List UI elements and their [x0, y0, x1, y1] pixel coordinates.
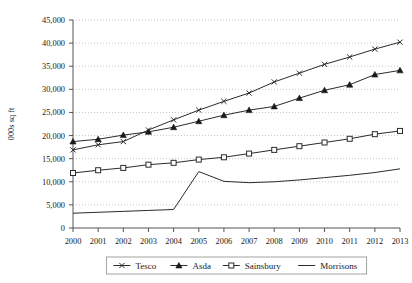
data-point-marker — [71, 170, 76, 175]
x-tick-label: 2003 — [140, 237, 157, 246]
data-point-marker — [96, 168, 101, 173]
x-tick-label: 2002 — [115, 237, 132, 246]
y-axis-tick-labels: 05,00010,00015,00020,00025,00030,00035,0… — [42, 16, 65, 233]
data-point-marker — [347, 82, 353, 88]
legend-label: Morrisons — [320, 261, 357, 271]
series-line-asda — [73, 70, 400, 141]
data-point-marker — [196, 157, 201, 162]
data-point-marker — [272, 147, 277, 152]
line-chart: 05,00010,00015,00020,00025,00030,00035,0… — [0, 0, 412, 283]
data-point-marker — [171, 160, 176, 165]
data-point-marker — [322, 140, 327, 145]
y-tick-label: 20,000 — [42, 132, 65, 141]
legend-label: Sainsbury — [245, 261, 281, 271]
data-point-marker — [372, 132, 377, 137]
data-point-marker — [398, 128, 403, 133]
series-asda — [70, 67, 403, 144]
x-tick-label: 2000 — [65, 237, 82, 246]
chart-container: 05,00010,00015,00020,00025,00030,00035,0… — [0, 0, 412, 283]
x-tick-label: 2005 — [190, 237, 207, 246]
data-series-layer — [70, 40, 403, 214]
x-tick-label: 2011 — [341, 237, 357, 246]
y-tick-label: 30,000 — [42, 85, 65, 94]
y-axis-tick-marks — [69, 20, 73, 228]
data-point-marker — [347, 136, 352, 141]
y-tick-label: 15,000 — [42, 155, 65, 164]
data-point-marker — [247, 151, 252, 156]
y-tick-label: 45,000 — [42, 16, 65, 25]
series-morrisons — [73, 169, 400, 213]
series-line-morrisons — [73, 169, 400, 213]
y-tick-label: 40,000 — [42, 39, 65, 48]
x-tick-label: 2013 — [392, 237, 409, 246]
x-tick-label: 2008 — [266, 237, 283, 246]
legend-marker-square — [229, 263, 234, 268]
x-tick-label: 2009 — [291, 237, 308, 246]
y-tick-label: 5,000 — [46, 201, 65, 210]
x-tick-label: 2006 — [216, 237, 233, 246]
y-axis-title: 000s sq ft — [7, 107, 16, 140]
x-tick-label: 2010 — [316, 237, 333, 246]
legend-label: Tesco — [135, 261, 156, 271]
x-tick-label: 2007 — [241, 237, 258, 246]
legend-label: Asda — [192, 261, 211, 271]
data-point-marker — [221, 155, 226, 160]
data-point-marker — [397, 67, 403, 73]
y-tick-label: 10,000 — [42, 178, 65, 187]
x-tick-label: 2004 — [165, 237, 183, 246]
y-tick-label: 35,000 — [42, 62, 65, 71]
x-tick-label: 2012 — [366, 237, 383, 246]
chart-legend: TescoAsdaSainsburyMorrisons — [106, 257, 366, 274]
y-tick-label: 0 — [61, 224, 65, 233]
data-point-marker — [297, 144, 302, 149]
y-tick-label: 25,000 — [42, 108, 65, 117]
data-point-marker — [121, 165, 126, 170]
x-tick-label: 2001 — [90, 237, 107, 246]
x-axis-tick-labels: 2000200120022003200420052006200720082009… — [65, 237, 409, 246]
x-axis-tick-marks — [73, 228, 400, 232]
data-point-marker — [146, 162, 151, 167]
